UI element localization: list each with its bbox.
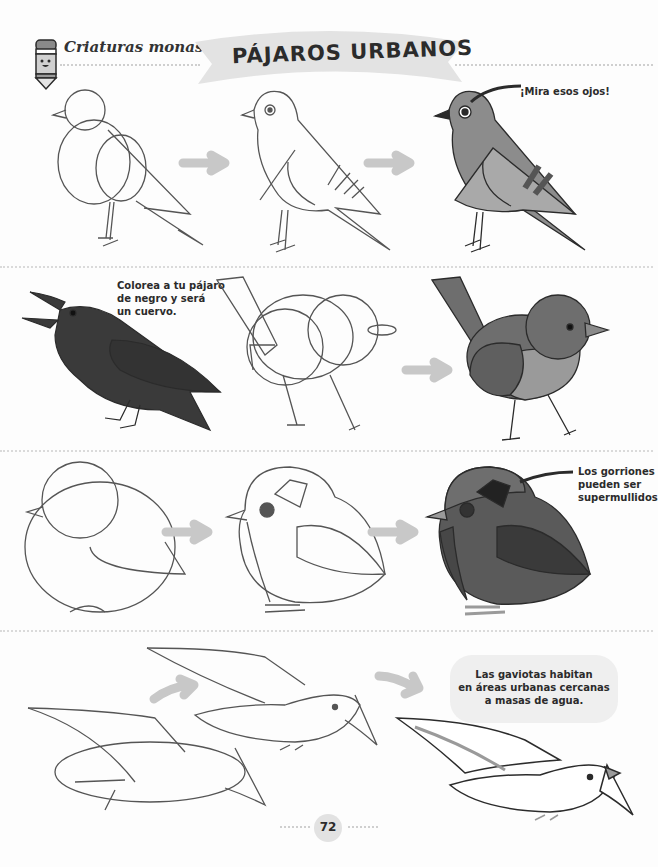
arrow-icon — [370, 520, 426, 544]
seagull-note: Las gaviotas habitan en áreas urbanas ce… — [450, 668, 618, 707]
page-number: 72 — [314, 820, 342, 834]
arrow-icon — [181, 151, 237, 175]
section-divider — [0, 266, 653, 268]
crow-note-line-3: un cuervo. — [117, 305, 225, 318]
crow-note-line-2: de negro y será — [117, 292, 225, 305]
sparrow-note-line-3: supermullidos — [578, 491, 658, 504]
crow-note-line-1: Colorea a tu pájaro — [117, 279, 225, 292]
section-divider — [0, 630, 653, 632]
seagull-note-line-3: a masas de agua. — [450, 694, 618, 707]
footer-dots-right — [348, 826, 378, 828]
seagull-lineart — [145, 645, 390, 755]
header-divider-left — [60, 64, 200, 66]
seagull-note-line-1: Las gaviotas habitan — [450, 668, 618, 681]
sparrow-note: Los gorriones pueden ser supermullidos — [578, 465, 658, 504]
sparrow-note-line-2: pueden ser — [578, 478, 658, 491]
series-label: Criaturas monas — [64, 38, 203, 56]
crow-note: Colorea a tu pájaro de negro y será un c… — [117, 279, 225, 318]
header-divider-right — [455, 64, 653, 66]
arrow-icon — [164, 520, 220, 544]
arrow-icon — [375, 668, 431, 698]
sparrow-note-line-1: Los gorriones — [578, 465, 658, 478]
seagull-colored — [395, 715, 645, 825]
robin-colored — [430, 275, 615, 445]
footer-dots-left — [280, 826, 310, 828]
sparrow-colored — [425, 462, 595, 622]
crayon-mascot-icon — [33, 38, 59, 90]
pigeon-colored — [433, 88, 593, 258]
pigeon-note: ¡Mira esos ojos! — [520, 85, 610, 98]
arrow-icon — [366, 151, 422, 175]
section-divider — [0, 450, 653, 452]
robin-sketch — [215, 275, 400, 445]
seagull-note-line-2: en áreas urbanas cercanas — [450, 681, 618, 694]
